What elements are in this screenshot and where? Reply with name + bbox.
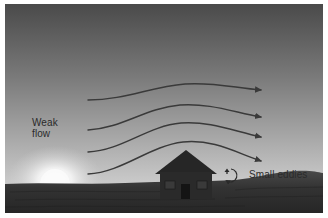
eddy-icon: [225, 169, 237, 182]
small-eddies-label: Small eddies: [249, 169, 307, 180]
house-door: [181, 184, 190, 199]
house-roof: [155, 150, 217, 174]
airflow-arrow-1: [88, 84, 261, 100]
weak-flow-label-line1: Weak: [32, 117, 72, 128]
scene-illustration: [5, 4, 323, 213]
weak-flow-label-line2: flow: [32, 128, 72, 139]
airflow-arrow-2: [88, 105, 261, 130]
airflow-arrow-3: [88, 123, 261, 152]
house-window-right: [197, 181, 207, 189]
house-window-left: [165, 181, 175, 189]
diagram-frame: Weak flow Small eddies: [5, 4, 323, 213]
house: [155, 150, 217, 199]
weak-flow-label: Weak flow: [32, 117, 72, 139]
